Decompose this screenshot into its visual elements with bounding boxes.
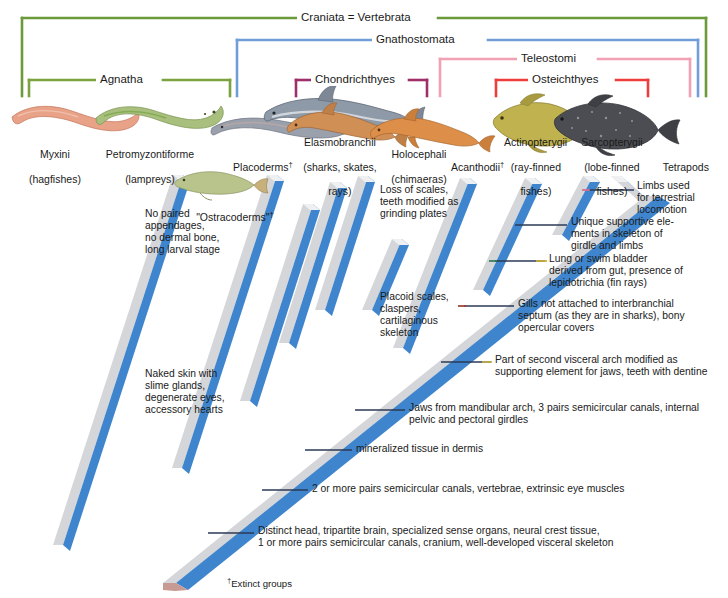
taxon-name: Tetrapods — [663, 161, 709, 173]
extinct-dagger: † — [270, 210, 274, 219]
taxon-name: Sarcopterygii — [581, 136, 642, 148]
clade-label-teleostomi: Teleostomi — [517, 52, 580, 65]
taxon-common: (hagfishes) — [29, 173, 81, 185]
taxon-common-2: fishes) — [520, 185, 551, 197]
clade-label-osteichthyes: Osteichthyes — [528, 73, 602, 86]
clade-label-gnathostomata: Gnathostomata — [372, 33, 459, 46]
taxon-common-2: rays) — [328, 185, 351, 197]
taxon-name: Myxini — [40, 148, 70, 160]
annotation-mineralized: mineralized tissue in dermis — [356, 443, 483, 455]
annotation-girdle: Unique supportive ele- ments in skeleton… — [571, 216, 674, 252]
taxon-label-myxini: Myxini (hagfishes) — [10, 136, 94, 185]
clade-label-craniata: Craniata = Vertebrata — [297, 11, 415, 24]
taxon-name: Petromyzontiforme — [106, 148, 194, 160]
annotation-naked-skin: Naked skin with slime glands, degenerate… — [145, 368, 225, 416]
clade-label-agnatha: Agnatha — [96, 73, 147, 86]
taxon-common-2: fishes) — [596, 185, 627, 197]
taxon-name: Elasmobranchii — [304, 136, 376, 148]
taxon-label-tetrapods: Tetrapods — [643, 149, 723, 173]
footnote-extinct-groups: †Extinct groups — [222, 567, 292, 589]
annotation-no-paired: No paired appendages, no dermal bone, lo… — [145, 208, 220, 256]
taxon-common: (chimaeras) — [391, 173, 446, 185]
taxon-common: (ray-finned — [511, 161, 561, 173]
cladogram-figure: Craniata = Vertebrata Gnathostomata Tele… — [0, 0, 728, 598]
taxon-name: Placoderms — [233, 161, 288, 173]
annotation-loss-scales: Loss of scales, teeth modified as grindi… — [380, 184, 458, 220]
annotation-gills: Gills not attached to interbranchial sep… — [518, 298, 685, 334]
annotation-placoid: Placoid scales, claspers, cartilaginous … — [380, 291, 449, 339]
annotation-semicircular: 2 or more pairs semicircular canals, ver… — [312, 483, 624, 495]
annotation-distinct-head: Distinct head, tripartite brain, special… — [258, 525, 613, 549]
annotation-lung: Lung or swim bladder derived from gut, p… — [549, 253, 683, 289]
annotation-visceral-arch: Part of second visceral arch modified as… — [495, 354, 707, 378]
annotation-jaws: Jaws from mandibular arch, 3 pairs semic… — [409, 402, 699, 426]
clade-bracket-gnathostomata — [237, 40, 698, 96]
annotation-limbs: Limbs used for terrestrial locomotion — [637, 180, 695, 216]
footnote-text: Extinct groups — [231, 578, 292, 589]
taxon-label-petromyzontiforme: Petromyzontiforme (lampreys) — [83, 136, 211, 185]
taxon-common: (sharks, skates, — [303, 161, 377, 173]
taxon-name: Actinopterygii — [504, 136, 567, 148]
clade-label-chondrichthyes: Chondrichthyes — [311, 73, 399, 86]
taxon-common: (lampreys) — [125, 173, 175, 185]
taxon-common: (lobe-finned — [584, 161, 639, 173]
